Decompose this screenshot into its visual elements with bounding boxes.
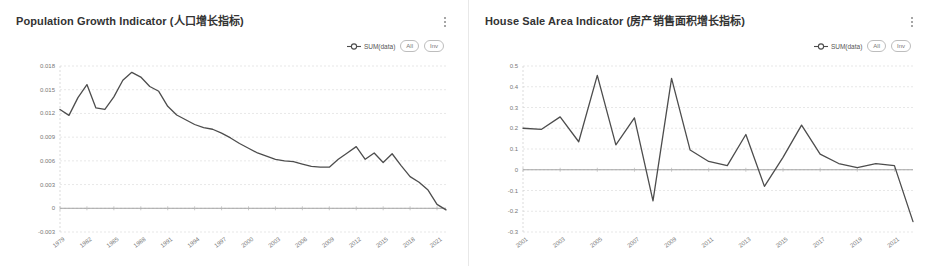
kebab-menu-icon[interactable] bbox=[438, 14, 452, 30]
charts-dashboard: Population Growth Indicator (人口增长指标) SUM… bbox=[0, 0, 935, 266]
x-axis-tick-label: 2019 bbox=[849, 236, 864, 249]
y-axis-tick-label: -0.2 bbox=[508, 208, 519, 214]
x-axis-tick-label: 2015 bbox=[375, 236, 390, 249]
legend-pill-inv[interactable]: Inv bbox=[891, 40, 911, 52]
legend-house-sale-area: SUM(data) All Inv bbox=[485, 38, 919, 54]
y-axis-tick-label: 0 bbox=[52, 205, 56, 211]
legend-population-growth: SUM(data) All Inv bbox=[16, 38, 452, 54]
series-line-sum-data[interactable] bbox=[523, 75, 913, 221]
series-line-sum-data[interactable] bbox=[60, 72, 446, 210]
line-chart-house-sale-area[interactable]: 0.50.40.30.20.10-0.1-0.2-0.3200120032005… bbox=[485, 58, 919, 254]
panel-header-population-growth: Population Growth Indicator (人口增长指标) bbox=[16, 14, 452, 32]
legend-series-entry[interactable]: SUM(data) bbox=[814, 42, 862, 51]
x-axis-tick-label: 2005 bbox=[589, 236, 604, 249]
panel-header-house-sale-area: House Sale Area Indicator (房产销售面积增长指标) bbox=[485, 14, 919, 32]
x-axis-tick-label: 2000 bbox=[240, 236, 255, 249]
x-axis-tick-label: 2009 bbox=[321, 236, 336, 249]
y-axis-tick-label: -0.003 bbox=[38, 229, 56, 235]
legend-pill-inv[interactable]: Inv bbox=[424, 40, 444, 52]
y-axis-tick-label: 0.006 bbox=[40, 158, 56, 164]
x-axis-tick-label: 2003 bbox=[552, 236, 567, 249]
y-axis-tick-label: 0.1 bbox=[510, 146, 519, 152]
x-axis-tick-label: 1988 bbox=[132, 236, 147, 249]
x-axis-tick-label: 1997 bbox=[213, 236, 228, 249]
plot-area-house-sale-area: 0.50.40.30.20.10-0.1-0.2-0.3200120032005… bbox=[485, 58, 919, 254]
page-title: House Sale Area Indicator (房产销售面积增长指标) bbox=[485, 14, 745, 28]
y-axis-tick-label: 0.4 bbox=[510, 84, 519, 90]
y-axis-tick-label: 0.018 bbox=[40, 63, 56, 69]
y-axis-tick-label: -0.3 bbox=[508, 229, 519, 235]
x-axis-tick-label: 2017 bbox=[812, 236, 827, 249]
x-axis-tick-label: 1982 bbox=[79, 236, 94, 249]
x-axis-tick-label: 1979 bbox=[52, 236, 67, 249]
x-axis-tick-label: 2006 bbox=[294, 236, 309, 249]
y-axis-tick-label: -0.1 bbox=[508, 188, 519, 194]
legend-pill-all[interactable]: All bbox=[867, 40, 886, 52]
x-axis-tick-label: 1985 bbox=[106, 236, 121, 249]
y-axis-tick-label: 0 bbox=[515, 167, 519, 173]
x-axis-tick-label: 2007 bbox=[626, 236, 641, 249]
x-axis-tick-label: 2013 bbox=[738, 236, 753, 249]
legend-pill-all[interactable]: All bbox=[400, 40, 419, 52]
kebab-menu-icon[interactable] bbox=[905, 14, 919, 30]
legend-series-label: SUM(data) bbox=[831, 43, 862, 50]
x-axis-tick-label: 2003 bbox=[267, 236, 282, 249]
y-axis-tick-label: 0.3 bbox=[510, 105, 519, 111]
plot-area-population-growth: 0.0180.0150.0120.0090.0060.0030-0.003197… bbox=[16, 58, 452, 254]
y-axis-tick-label: 0.009 bbox=[40, 134, 56, 140]
x-axis-tick-label: 2015 bbox=[775, 236, 790, 249]
y-axis-tick-label: 0.2 bbox=[510, 125, 519, 131]
legend-series-entry[interactable]: SUM(data) bbox=[347, 42, 395, 51]
line-chart-population-growth[interactable]: 0.0180.0150.0120.0090.0060.0030-0.003197… bbox=[16, 58, 452, 254]
x-axis-tick-label: 2021 bbox=[886, 236, 901, 249]
legend-series-label: SUM(data) bbox=[364, 43, 395, 50]
x-axis-tick-label: 2021 bbox=[429, 236, 444, 249]
circle-marker-icon bbox=[814, 42, 828, 51]
x-axis-tick-label: 1994 bbox=[186, 236, 201, 249]
x-axis-tick-label: 2011 bbox=[701, 236, 715, 249]
panel-population-growth: Population Growth Indicator (人口增长指标) SUM… bbox=[0, 0, 468, 266]
x-axis-tick-label: 2012 bbox=[348, 236, 363, 249]
x-axis-tick-label: 2009 bbox=[663, 236, 678, 249]
y-axis-tick-label: 0.012 bbox=[40, 110, 56, 116]
x-axis-tick-label: 1991 bbox=[159, 236, 174, 249]
y-axis-tick-label: 0.5 bbox=[510, 63, 519, 69]
page-title: Population Growth Indicator (人口增长指标) bbox=[16, 14, 244, 28]
panel-house-sale-area: House Sale Area Indicator (房产销售面积增长指标) S… bbox=[468, 0, 935, 266]
circle-marker-icon bbox=[347, 42, 361, 51]
y-axis-tick-label: 0.015 bbox=[40, 87, 56, 93]
x-axis-tick-label: 2018 bbox=[402, 236, 417, 249]
x-axis-tick-label: 2001 bbox=[515, 236, 530, 249]
y-axis-tick-label: 0.003 bbox=[40, 182, 56, 188]
